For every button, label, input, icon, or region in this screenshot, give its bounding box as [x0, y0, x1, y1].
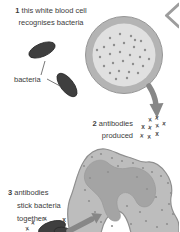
- antibody-mark: x: [147, 132, 152, 139]
- granule-dot: [136, 176, 138, 178]
- chevron-left-icon: [167, 4, 180, 27]
- antibody-mark: x: [162, 119, 167, 126]
- granule-dot: [128, 71, 130, 73]
- granule-dot: [142, 65, 144, 67]
- granule-dot: [148, 58, 150, 60]
- granule-dot: [117, 165, 119, 167]
- granule-dot: [109, 37, 111, 39]
- granule-dot: [170, 192, 172, 194]
- granule-dot: [111, 157, 113, 159]
- granule-dot: [168, 203, 170, 205]
- wbc-cytoplasm: [93, 24, 156, 87]
- antibody-mark: x: [155, 113, 160, 121]
- bacterium: [27, 39, 58, 62]
- granule-dot: [137, 72, 139, 74]
- granule-dot: [144, 49, 146, 51]
- granule-dot: [109, 72, 111, 74]
- step2-text: antibodies: [99, 119, 133, 128]
- granule-dot: [129, 54, 131, 56]
- step2-line1: 2 antibodies: [68, 118, 133, 130]
- granule-dot: [139, 56, 141, 58]
- granule-dot: [119, 33, 121, 35]
- granule-dot: [121, 160, 123, 162]
- pointer-line: [41, 61, 45, 75]
- granule-dot: [111, 225, 113, 227]
- granule-dot: [112, 62, 114, 64]
- granule-dot: [142, 167, 144, 169]
- granule-dot: [100, 221, 102, 223]
- granule-dot: [133, 46, 135, 48]
- step2-number: 2: [93, 119, 97, 128]
- bacteria-label: bacteria: [14, 74, 41, 86]
- granule-dot: [96, 49, 98, 51]
- granule-dot: [130, 223, 132, 225]
- step3-text: antibodies: [14, 188, 48, 197]
- granule-dot: [115, 78, 117, 80]
- granule-dot: [156, 226, 158, 228]
- granule-dot: [113, 44, 115, 46]
- step3-line3: together: [8, 213, 80, 226]
- antibody-mark: x: [141, 123, 145, 130]
- granule-dot: [118, 70, 120, 72]
- granule-dot: [123, 42, 125, 44]
- antibody-mark: x: [155, 121, 160, 129]
- granule-dot: [109, 53, 111, 55]
- granule-dot: [88, 200, 90, 202]
- step3-line2: stick bacteria: [8, 200, 80, 213]
- granule-dot: [161, 209, 163, 211]
- granule-dot: [160, 175, 162, 177]
- step1-caption: 1 this white blood cell recognises bacte…: [4, 5, 98, 29]
- granule-dot: [145, 220, 147, 222]
- granule-dot: [134, 39, 136, 41]
- granule-dot: [140, 40, 142, 42]
- granule-dot: [94, 211, 96, 213]
- granule-dot: [126, 205, 128, 207]
- bacteria-group: [27, 39, 81, 100]
- granule-dot: [172, 213, 174, 215]
- antibody-mark: x: [147, 123, 152, 131]
- diagram-page: xxxxxxxxx xxxx 1 this white blood cell r…: [0, 0, 179, 232]
- granule-dot: [130, 35, 132, 37]
- step3-line1: 3 antibodies: [8, 187, 80, 200]
- step2-caption: 2 antibodies produced: [68, 118, 133, 142]
- antibody-mark: x: [140, 131, 145, 138]
- granule-dot: [103, 46, 105, 48]
- phagocyte-cell: [68, 149, 180, 232]
- step2-line2: produced: [68, 130, 133, 142]
- antibody-mark: x: [148, 115, 153, 122]
- step1-line2: recognises bacteria: [4, 17, 98, 29]
- granule-dot: [84, 189, 86, 191]
- granule-dot: [122, 60, 124, 62]
- step1-text: this white blood cell: [22, 6, 87, 15]
- antibody-cluster: xxxxxxxxx: [140, 113, 167, 139]
- granule-dot: [99, 56, 101, 58]
- granule-dot: [132, 63, 134, 65]
- granule-dot: [107, 171, 109, 173]
- granule-dot: [126, 77, 128, 79]
- step3-number: 3: [8, 188, 12, 197]
- step1-number: 1: [15, 6, 19, 15]
- granule-dot: [83, 165, 85, 167]
- step1-line1: 1 this white blood cell: [4, 5, 98, 17]
- granule-dot: [132, 162, 134, 164]
- granule-dot: [155, 196, 157, 198]
- granule-dot: [89, 177, 91, 179]
- granule-dot: [146, 188, 148, 190]
- granule-dot: [100, 153, 102, 155]
- granule-dot: [139, 211, 141, 213]
- step3-caption: 3 antibodies stick bacteria together: [8, 187, 80, 226]
- granule-dot: [119, 51, 121, 53]
- granule-dot: [167, 182, 169, 184]
- antibody-mark: x: [155, 130, 159, 137]
- granule-dot: [103, 65, 105, 67]
- granule-dot: [166, 223, 168, 225]
- granule-dot: [91, 156, 93, 158]
- granule-dot: [151, 171, 153, 173]
